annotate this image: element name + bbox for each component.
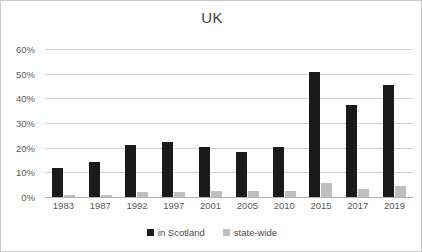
bar-group xyxy=(192,49,229,197)
x-axis-tick-label: 1987 xyxy=(82,200,119,211)
legend-label: in Scotland xyxy=(158,227,205,238)
x-axis-tick-label: 2005 xyxy=(229,200,266,211)
x-axis: 1983198719921997200120052010201520172019 xyxy=(45,200,413,218)
bar-group xyxy=(229,49,266,197)
x-axis-tick-label: 2001 xyxy=(192,200,229,211)
bar-in-scotland xyxy=(309,72,320,197)
legend-item[interactable]: state-wide xyxy=(223,227,277,238)
legend-item[interactable]: in Scotland xyxy=(147,227,205,238)
bar-in-scotland xyxy=(346,105,357,197)
bar-in-scotland xyxy=(236,152,247,197)
legend-swatch-icon xyxy=(147,229,154,236)
bar-in-scotland xyxy=(89,162,100,197)
bar-group xyxy=(119,49,156,197)
bar-state-wide xyxy=(101,195,112,197)
y-axis-tick-label: 60% xyxy=(16,44,35,55)
bar-in-scotland xyxy=(52,168,63,197)
bar-group xyxy=(155,49,192,197)
bar-in-scotland xyxy=(162,142,173,197)
y-axis: 0%10%20%30%40%50%60% xyxy=(1,49,41,197)
y-axis-tick-label: 0% xyxy=(21,192,35,203)
chart-container: UK 0%10%20%30%40%50%60% 1983198719921997… xyxy=(0,0,422,252)
bar-group xyxy=(266,49,303,197)
bar-state-wide xyxy=(64,195,75,197)
legend-swatch-icon xyxy=(223,229,230,236)
bar-group xyxy=(303,49,340,197)
y-axis-tick-label: 20% xyxy=(16,142,35,153)
y-axis-tick-label: 40% xyxy=(16,93,35,104)
x-axis-tick-label: 2019 xyxy=(376,200,413,211)
bar-in-scotland xyxy=(383,85,394,197)
bar-state-wide xyxy=(395,186,406,197)
bar-in-scotland xyxy=(125,145,136,197)
bar-state-wide xyxy=(358,189,369,197)
bar-state-wide xyxy=(137,192,148,197)
bar-group xyxy=(339,49,376,197)
legend-label: state-wide xyxy=(234,227,277,238)
y-axis-tick-label: 30% xyxy=(16,118,35,129)
bar-state-wide xyxy=(285,191,296,197)
bar-in-scotland xyxy=(273,147,284,197)
chart-legend: in Scotlandstate-wide xyxy=(1,227,422,238)
x-axis-tick-label: 1983 xyxy=(45,200,82,211)
y-axis-tick-label: 50% xyxy=(16,68,35,79)
x-axis-tick-label: 2015 xyxy=(303,200,340,211)
bar-in-scotland xyxy=(199,147,210,197)
x-axis-tick-label: 2010 xyxy=(266,200,303,211)
x-axis-tick-label: 1992 xyxy=(119,200,156,211)
bar-state-wide xyxy=(174,192,185,197)
bar-group xyxy=(82,49,119,197)
bar-state-wide xyxy=(321,183,332,197)
bar-state-wide xyxy=(248,191,259,197)
x-axis-line xyxy=(45,197,413,198)
bar-group xyxy=(376,49,413,197)
chart-title: UK xyxy=(1,9,422,26)
y-axis-tick-label: 10% xyxy=(16,167,35,178)
x-axis-tick-label: 1997 xyxy=(155,200,192,211)
x-axis-tick-label: 2017 xyxy=(339,200,376,211)
bar-state-wide xyxy=(211,191,222,197)
bar-group xyxy=(45,49,82,197)
bars-layer xyxy=(45,49,413,197)
